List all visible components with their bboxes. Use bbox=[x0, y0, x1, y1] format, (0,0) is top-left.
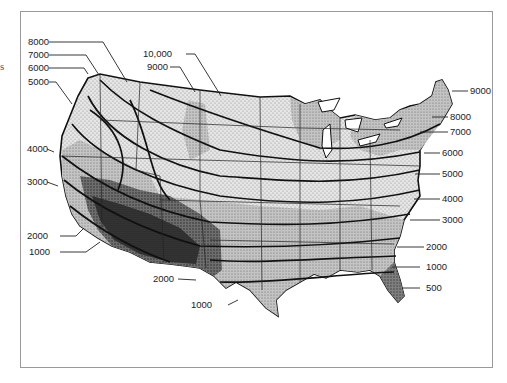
labels-west-coast: 4000 3000 2000 1000 bbox=[27, 143, 50, 257]
label-500-east: 500 bbox=[426, 282, 442, 293]
label-4000-east: 4000 bbox=[442, 193, 463, 204]
label-7000-east: 7000 bbox=[450, 126, 471, 137]
label-5000-east: 5000 bbox=[442, 168, 463, 179]
labels-west-top: 8000 7000 6000 5000 bbox=[28, 36, 49, 87]
label-6000-east: 6000 bbox=[442, 147, 463, 158]
label-9000-east: 9000 bbox=[470, 85, 491, 96]
label-1000-west: 1000 bbox=[29, 246, 50, 257]
label-2000-east: 2000 bbox=[426, 241, 447, 252]
us-isoline-map: 8000 7000 6000 5000 10,000 9000 4000 300… bbox=[0, 0, 507, 383]
label-5000: 5000 bbox=[28, 76, 49, 87]
label-2000-west: 2000 bbox=[27, 230, 48, 241]
label-1000-south: 1000 bbox=[191, 299, 212, 310]
label-8000: 8000 bbox=[28, 36, 49, 47]
label-9000-north: 9000 bbox=[147, 61, 168, 72]
label-1000-east: 1000 bbox=[426, 261, 447, 272]
label-7000: 7000 bbox=[28, 49, 49, 60]
labels-north-top: 10,000 9000 bbox=[143, 48, 172, 72]
label-3000-east: 3000 bbox=[442, 214, 463, 225]
label-8000-east: 8000 bbox=[450, 111, 471, 122]
label-6000: 6000 bbox=[28, 62, 49, 73]
labels-south: 2000 1000 bbox=[153, 273, 212, 310]
label-4000-west: 4000 bbox=[27, 143, 48, 154]
label-2000-south: 2000 bbox=[153, 273, 174, 284]
label-10000: 10,000 bbox=[143, 48, 172, 59]
label-3000-west: 3000 bbox=[27, 176, 48, 187]
